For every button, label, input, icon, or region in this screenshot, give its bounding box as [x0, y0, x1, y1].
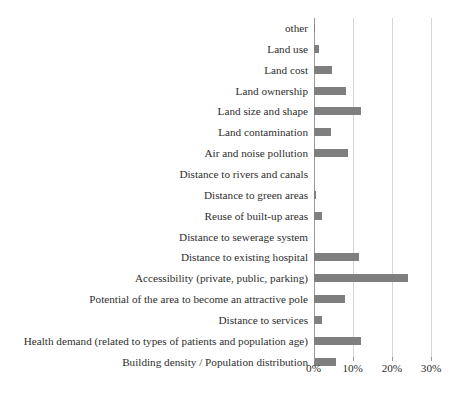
x-tick-mark — [431, 357, 432, 361]
category-label: Land ownership — [0, 81, 308, 102]
bar — [314, 191, 317, 199]
plot-area — [314, 18, 432, 357]
x-tick-mark — [353, 357, 354, 361]
category-label: Distance to rivers and canals — [0, 164, 308, 185]
bar — [314, 66, 332, 74]
category-axis-labels: otherLand useLand costLand ownershipLand… — [0, 18, 308, 357]
bar — [314, 45, 319, 53]
category-label: Land size and shape — [0, 101, 308, 122]
category-label: Land contamination — [0, 122, 308, 143]
x-tick-label: 30% — [421, 362, 442, 375]
bar — [314, 316, 323, 324]
category-label: Land cost — [0, 60, 308, 81]
x-tick-label: 10% — [342, 362, 363, 375]
category-label: Health demand (related to types of patie… — [0, 331, 308, 352]
bar-chart: otherLand useLand costLand ownershipLand… — [0, 0, 458, 396]
category-label: Air and noise pollution — [0, 143, 308, 164]
category-label: Distance to green areas — [0, 185, 308, 206]
category-label: Distance to sewerage system — [0, 227, 308, 248]
bar — [314, 87, 347, 95]
gridline-30 — [431, 18, 432, 357]
bar — [314, 274, 408, 282]
category-label: Land use — [0, 39, 308, 60]
x-tick-label: 20% — [382, 362, 403, 375]
x-tick-mark — [392, 357, 393, 361]
bar — [314, 295, 345, 303]
category-label: Reuse of built-up areas — [0, 206, 308, 227]
category-label: Distance to services — [0, 310, 308, 331]
bar — [314, 149, 348, 157]
category-label: Distance to existing hospital — [0, 247, 308, 268]
x-tick-label: 0% — [306, 362, 321, 375]
bar — [314, 107, 361, 115]
gridline-20 — [392, 18, 393, 357]
bar — [314, 337, 362, 345]
bar — [314, 128, 331, 136]
category-label: Building density / Population distributi… — [0, 352, 308, 373]
value-axis: 0%10%20%30% — [314, 357, 432, 379]
bar — [314, 24, 316, 32]
category-label: Potential of the area to become an attra… — [0, 289, 308, 310]
x-tick-mark — [314, 357, 315, 361]
gridline-10 — [353, 18, 354, 357]
bar — [314, 212, 323, 220]
category-label: other — [0, 18, 308, 39]
bar — [314, 253, 359, 261]
category-label: Accessibility (private, public, parking) — [0, 268, 308, 289]
